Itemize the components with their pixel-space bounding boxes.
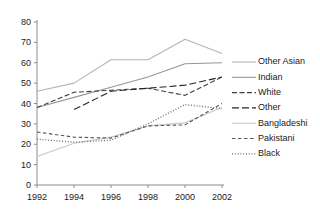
y-axis-tick-label: 10 [21, 160, 31, 170]
y-axis-tick-label: 0 [26, 180, 31, 190]
x-axis-tick-label: 2002 [212, 192, 232, 202]
legend-label-other: Other [258, 102, 281, 112]
series-line-pakistani [37, 104, 222, 139]
y-axis-tick-labels: 01020304050607080 [21, 17, 31, 190]
y-axis-tick-label: 60 [21, 58, 31, 68]
series-line-bangladeshi [37, 108, 222, 157]
legend-label-indian: Indian [258, 72, 283, 82]
x-axis-tick-label: 2000 [175, 192, 195, 202]
legend-label-bangladeshi: Bangladeshi [258, 118, 308, 128]
series-line-other [74, 77, 222, 110]
series-lines [37, 39, 222, 156]
y-axis-tick-label: 30 [21, 119, 31, 129]
legend-label-black: Black [258, 148, 281, 158]
line-chart: 01020304050607080 1992199419961998200020… [0, 0, 320, 222]
legend-label-other-asian: Other Asian [258, 56, 305, 66]
y-axis-tick-label: 40 [21, 99, 31, 109]
y-axis-tick-label: 50 [21, 78, 31, 88]
chart-legend: Other AsianIndianWhiteOtherBangladeshiPa… [232, 56, 308, 158]
x-axis-tick-label: 1998 [138, 192, 158, 202]
legend-label-white: White [258, 87, 281, 97]
x-axis-tick-label: 1994 [64, 192, 84, 202]
legend-label-pakistani: Pakistani [258, 133, 295, 143]
series-line-black [37, 105, 222, 143]
x-axis-tick-label: 1992 [27, 192, 47, 202]
y-axis-tick-label: 20 [21, 139, 31, 149]
x-axis-tick-labels: 199219941996199820002002 [27, 192, 232, 202]
chart-canvas: 01020304050607080 1992199419961998200020… [0, 0, 320, 222]
y-axis-tick-label: 70 [21, 37, 31, 47]
y-axis-tick-label: 80 [21, 17, 31, 27]
axes [34, 20, 224, 188]
x-axis-tick-label: 1996 [101, 192, 121, 202]
